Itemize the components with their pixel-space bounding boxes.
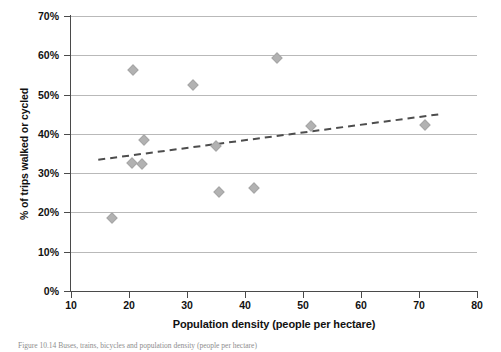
y-tick-label: 10% bbox=[19, 247, 59, 258]
y-tick bbox=[64, 55, 70, 56]
x-tick bbox=[419, 292, 420, 298]
y-tick-label: 60% bbox=[19, 50, 59, 61]
y-tick bbox=[64, 16, 70, 17]
gridline bbox=[71, 173, 477, 174]
data-point-marker bbox=[213, 186, 224, 197]
trendline-path bbox=[98, 114, 440, 160]
y-tick-label: 70% bbox=[19, 11, 59, 22]
gridline bbox=[71, 134, 477, 135]
plot-area bbox=[71, 16, 477, 291]
figure-caption: Figure 10.14 Buses, trains, bicycles and… bbox=[18, 341, 488, 350]
data-point-marker bbox=[138, 134, 149, 145]
data-point-marker bbox=[305, 120, 316, 131]
y-tick bbox=[64, 95, 70, 96]
data-point-marker bbox=[106, 212, 117, 223]
data-point-marker bbox=[137, 158, 148, 169]
x-tick bbox=[187, 292, 188, 298]
gridline bbox=[71, 16, 477, 17]
x-tick bbox=[129, 292, 130, 298]
x-tick-label: 60 bbox=[341, 300, 381, 311]
x-tick-label: 40 bbox=[225, 300, 265, 311]
data-point-marker bbox=[187, 79, 198, 90]
y-tick bbox=[64, 212, 70, 213]
data-point-marker bbox=[127, 65, 138, 76]
x-axis-title: Population density (people per hectare) bbox=[71, 318, 477, 330]
x-tick-label: 10 bbox=[51, 300, 91, 311]
gridline bbox=[71, 252, 477, 253]
y-tick bbox=[64, 252, 70, 253]
figure-container: % of trips walked or cycled Population d… bbox=[0, 0, 501, 352]
y-tick-label: 30% bbox=[19, 168, 59, 179]
x-tick-label: 70 bbox=[399, 300, 439, 311]
x-tick bbox=[245, 292, 246, 298]
y-tick bbox=[64, 291, 70, 292]
y-tick-label: 50% bbox=[19, 90, 59, 101]
gridline bbox=[71, 95, 477, 96]
data-point-marker bbox=[210, 141, 221, 152]
x-tick-label: 30 bbox=[167, 300, 207, 311]
data-point-marker bbox=[248, 182, 259, 193]
data-point-marker bbox=[419, 120, 430, 131]
x-tick bbox=[303, 292, 304, 298]
x-axis-line bbox=[70, 291, 478, 292]
y-axis-title: % of trips walked or cycled bbox=[18, 39, 30, 269]
x-tick-label: 80 bbox=[457, 300, 497, 311]
x-tick-label: 20 bbox=[109, 300, 149, 311]
y-tick-label: 40% bbox=[19, 129, 59, 140]
y-tick-label: 20% bbox=[19, 207, 59, 218]
x-tick bbox=[71, 292, 72, 298]
x-tick-label: 50 bbox=[283, 300, 323, 311]
y-tick bbox=[64, 173, 70, 174]
gridline bbox=[71, 212, 477, 213]
x-tick bbox=[477, 292, 478, 298]
y-tick-label: 0% bbox=[19, 286, 59, 297]
y-tick bbox=[64, 134, 70, 135]
x-tick bbox=[361, 292, 362, 298]
